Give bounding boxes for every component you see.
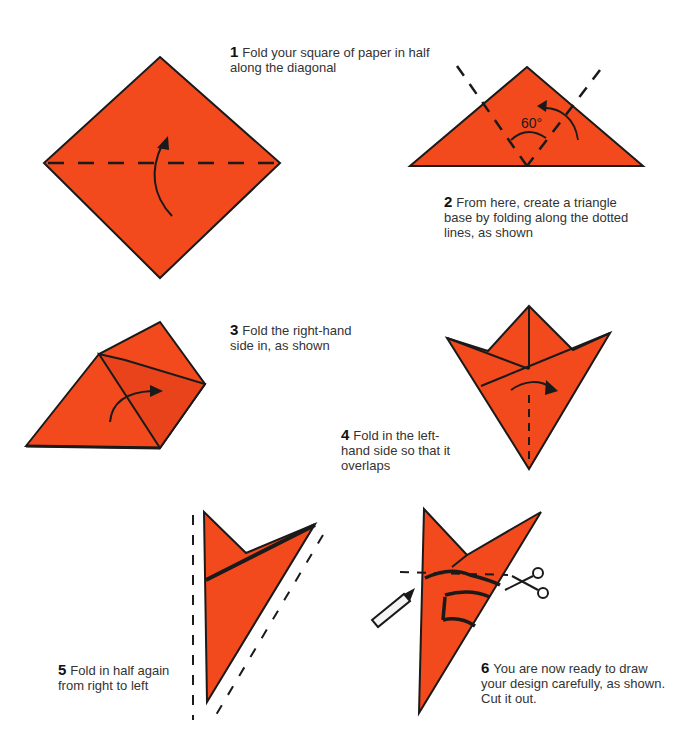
step-1-caption: 1Fold your square of paper in half along… — [230, 44, 430, 75]
step-4-caption: 4Fold in the left-hand side so that it o… — [341, 427, 466, 473]
step-number: 5 — [58, 661, 66, 678]
step-number: 4 — [341, 426, 349, 443]
step-number: 3 — [230, 321, 238, 338]
step-3-caption: 3Fold the right-hand side in, as shown — [230, 322, 360, 353]
step-instruction: From here, create a triangle base by fol… — [444, 195, 628, 240]
step-instruction: You are now ready to draw your design ca… — [481, 661, 665, 706]
step4-diagram — [447, 306, 610, 469]
step-instruction: Fold in the left-hand side so that it ov… — [341, 428, 450, 473]
step1-diagram — [44, 57, 280, 278]
step-instruction: Fold the right-hand side in, as shown — [230, 323, 351, 353]
scissors-icon — [505, 568, 548, 598]
step-6-caption: 6You are now ready to draw your design c… — [481, 660, 666, 706]
step-number: 6 — [481, 659, 489, 676]
instruction-illustrations: 60° — [0, 0, 683, 738]
step-number: 1 — [230, 43, 238, 60]
step-2-caption: 2From here, create a triangle base by fo… — [444, 194, 644, 240]
angle-label: 60° — [521, 115, 542, 131]
step2-diagram: 60° — [410, 66, 643, 166]
step-5-caption: 5Fold in half again from right to left — [58, 662, 173, 693]
step3-diagram — [26, 322, 205, 448]
step5-diagram — [193, 512, 323, 720]
step-instruction: Fold your square of paper in half along … — [230, 45, 430, 75]
step-number: 2 — [444, 193, 452, 210]
pencil-icon — [372, 588, 415, 627]
step-instruction: Fold in half again from right to left — [58, 663, 169, 693]
